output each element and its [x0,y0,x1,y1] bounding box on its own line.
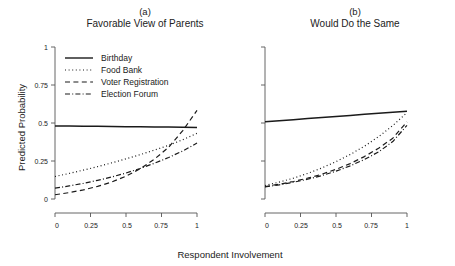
series-line-birthday [265,111,407,122]
panel-a-series-group [55,110,197,194]
series-line-election-forum [265,125,407,187]
series-line-food-bank [265,113,407,186]
plot-canvas [0,0,455,266]
series-line-birthday [55,126,197,128]
figure-root: (a) Favorable View of Parents (b) Would … [0,0,455,266]
panel-b-series-group [265,111,407,187]
series-line-election-forum [55,143,197,188]
panel-b-axes [261,47,407,217]
series-line-voter-registration [55,110,197,194]
